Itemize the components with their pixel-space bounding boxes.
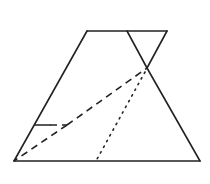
geometry-diagram <box>0 0 210 184</box>
right-edge-lower <box>147 68 200 161</box>
dotted-line <box>96 72 145 161</box>
fold-line <box>127 31 147 68</box>
fold-right-edge <box>147 31 167 68</box>
dashed-lower <box>14 125 67 161</box>
left-edge <box>14 31 87 161</box>
dashed-upper <box>67 68 147 125</box>
